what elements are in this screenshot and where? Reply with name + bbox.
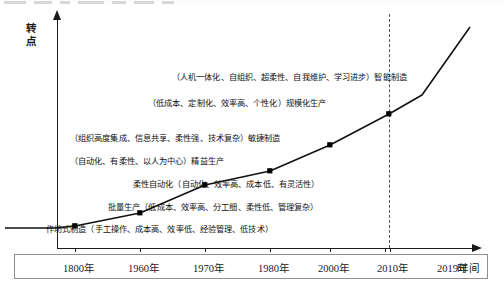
data-point-marker xyxy=(386,111,391,116)
annotation-workshop-manufacturing: 作坊式制造（手工操作、成本高、效率低、经验管理、低技术） xyxy=(46,225,273,235)
data-point-marker xyxy=(267,168,272,173)
x-axis-title: 时间 xyxy=(457,260,480,275)
annotation-flexible-automation: 柔性自动化（自动化、效率高、成本低、有灵活性） xyxy=(133,180,319,190)
annotation-smart-manufacturing: （人机一体化、自组织、超柔性、自我维护、学习进步）智能制造 xyxy=(172,73,407,83)
x-tick-label-2000: 2000年 xyxy=(318,260,349,275)
annotation-mass-production: 批量生产（低成本、效率高、分工细、柔性低、管理复杂） xyxy=(108,203,319,213)
scan-artifact-bottom xyxy=(170,283,340,289)
x-tick-label-1970: 1970年 xyxy=(193,260,224,275)
annotation-mass-customization: （低成本、定制化、效率高、个性化）规模化生产 xyxy=(148,99,326,109)
x-axis-label-strip: 1800年 1960年 1970年 1980年 2000年 2010年 2019… xyxy=(14,254,488,279)
x-tick-label-1980: 1980年 xyxy=(258,260,289,275)
manufacturing-evolution-chart: 转点 （人机一体化、自组织、超柔性、自我维护、学习进步）智能制造 （低成本、定制… xyxy=(0,0,504,289)
annotation-agile-manufacturing: （组织高度集成、信息共享、柔性强、技术复杂）敏捷制造 xyxy=(70,134,281,144)
x-tick-label-2010: 2010年 xyxy=(377,260,408,275)
x-tick-label-1800: 1800年 xyxy=(63,260,94,275)
x-tick-label-1960: 1960年 xyxy=(128,260,159,275)
data-point-marker xyxy=(327,142,332,147)
line-series-svg xyxy=(0,0,504,289)
annotation-lean-production: （自动化、有柔性、以人为中心）精益生产 xyxy=(70,157,224,167)
series-line xyxy=(57,27,470,228)
